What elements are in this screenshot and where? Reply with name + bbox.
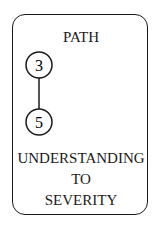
caption-line-1: UNDERSTANDING [10, 148, 152, 169]
node-label-5: 5 [35, 114, 43, 131]
node-label-3: 3 [35, 57, 43, 74]
card-caption: UNDERSTANDING TO SEVERITY [10, 148, 152, 211]
caption-line-2: TO [10, 169, 152, 190]
caption-line-3: SEVERITY [10, 190, 152, 211]
